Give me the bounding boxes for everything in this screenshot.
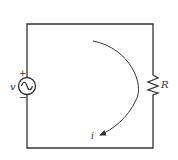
circuit-diagram: + − v R i	[0, 0, 178, 160]
source-label: v	[10, 81, 16, 92]
resistor-label: R	[160, 79, 169, 90]
current-label: i	[91, 131, 94, 141]
minus-sign: −	[19, 92, 27, 103]
plus-sign: +	[19, 68, 27, 78]
resistor	[148, 73, 158, 96]
current-arrow	[93, 41, 139, 135]
wire-loop	[27, 24, 153, 148]
